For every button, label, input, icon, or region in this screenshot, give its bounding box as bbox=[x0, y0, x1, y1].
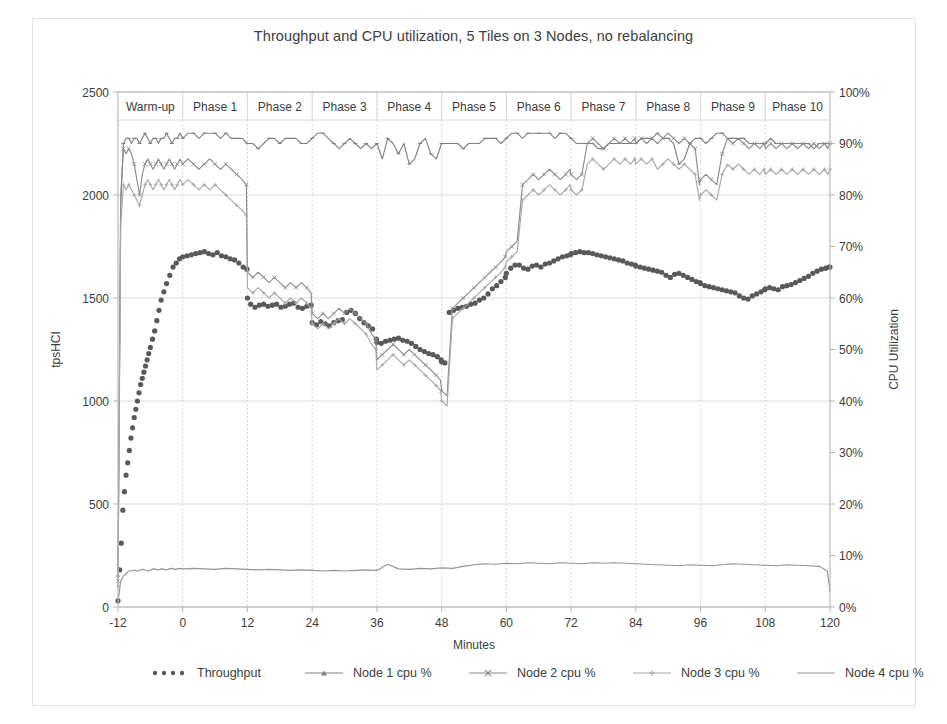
x-axis-tick-label: 24 bbox=[306, 616, 320, 630]
y2-axis-title: CPU Utilization bbox=[887, 309, 901, 390]
series-2 bbox=[116, 133, 830, 576]
series-4 bbox=[116, 157, 832, 588]
phase-label: Phase 4 bbox=[387, 100, 431, 114]
y2-axis-tick-label: 10% bbox=[839, 549, 863, 563]
x-axis-tick-label: 0 bbox=[179, 616, 186, 630]
y2-axis-tick-label: 50% bbox=[839, 343, 863, 357]
legend-item[interactable]: Node 2 cpu % bbox=[469, 666, 596, 680]
x-axis-tick-label: -12 bbox=[109, 616, 127, 630]
x-axis-tick-label: 96 bbox=[694, 616, 708, 630]
y2-axis-tick-label: 20% bbox=[839, 498, 863, 512]
series-5 bbox=[118, 563, 830, 602]
chart-legend[interactable]: ThroughputNode 1 cpu %Node 2 cpu %Node 3… bbox=[153, 666, 924, 680]
legend-label: Node 4 cpu % bbox=[845, 666, 924, 680]
legend-label: Throughput bbox=[197, 666, 261, 680]
phase-label: Warm-up bbox=[126, 100, 175, 114]
y-axis-tick-label: 2500 bbox=[82, 86, 109, 100]
legend-item[interactable]: Node 1 cpu % bbox=[305, 666, 432, 680]
phase-label: Phase 8 bbox=[646, 100, 690, 114]
gridlines bbox=[118, 92, 830, 607]
x-axis-tick-label: 108 bbox=[755, 616, 775, 630]
y-axis-tick-label: 2000 bbox=[82, 189, 109, 203]
legend-label: Node 1 cpu % bbox=[353, 666, 432, 680]
chart-plot-area[interactable]: Warm-upPhase 1Phase 2Phase 3Phase 4Phase… bbox=[0, 0, 947, 724]
y-axis-tick-label: 1000 bbox=[82, 395, 109, 409]
legend-label: Node 2 cpu % bbox=[517, 666, 596, 680]
y2-axis-tick-label: 100% bbox=[839, 86, 870, 100]
phase-label: Phase 1 bbox=[193, 100, 237, 114]
x-axis-tick-label: 36 bbox=[370, 616, 384, 630]
y2-axis-tick-label: 90% bbox=[839, 137, 863, 151]
axis-titles: MinutestpsHCICPU Utilization bbox=[49, 309, 901, 652]
y2-axis-tick-label: 30% bbox=[839, 446, 863, 460]
y2-axis-tick-label: 0% bbox=[839, 601, 857, 615]
y-axis-tick-label: 500 bbox=[89, 498, 109, 512]
x-axis-tick-label: 12 bbox=[241, 616, 255, 630]
y2-axis-tick-label: 80% bbox=[839, 189, 863, 203]
axes bbox=[118, 92, 830, 607]
x-axis-tick-label: 120 bbox=[820, 616, 840, 630]
phase-label: Phase 10 bbox=[772, 100, 823, 114]
phase-label: Phase 3 bbox=[323, 100, 367, 114]
series-3 bbox=[116, 133, 832, 583]
y2-axis-tick-label: 60% bbox=[839, 292, 863, 306]
series-1 bbox=[115, 249, 832, 603]
legend-item[interactable]: Node 4 cpu % bbox=[797, 666, 924, 680]
phase-label: Phase 6 bbox=[517, 100, 561, 114]
x-axis-title: Minutes bbox=[453, 638, 495, 652]
phase-label: Phase 5 bbox=[452, 100, 496, 114]
phase-bands: Warm-upPhase 1Phase 2Phase 3Phase 4Phase… bbox=[118, 92, 830, 120]
legend-item[interactable]: Node 3 cpu % bbox=[633, 666, 760, 680]
y-axis-title: tpsHCI bbox=[49, 331, 63, 368]
phase-label: Phase 9 bbox=[711, 100, 755, 114]
legend-item[interactable]: Throughput bbox=[153, 666, 262, 680]
y-axis-tick-label: 1500 bbox=[82, 292, 109, 306]
x-axis-tick-label: 72 bbox=[564, 616, 578, 630]
x-axis-tick-label: 60 bbox=[500, 616, 514, 630]
phase-label: Phase 7 bbox=[581, 100, 625, 114]
x-axis-tick-label: 84 bbox=[629, 616, 643, 630]
y-axis-tick-label: 0 bbox=[102, 601, 109, 615]
data-series bbox=[115, 133, 832, 603]
y2-axis-tick-label: 70% bbox=[839, 240, 863, 254]
x-axis-tick-label: 48 bbox=[435, 616, 449, 630]
y2-axis-tick-label: 40% bbox=[839, 395, 863, 409]
legend-label: Node 3 cpu % bbox=[681, 666, 760, 680]
phase-label: Phase 2 bbox=[258, 100, 302, 114]
